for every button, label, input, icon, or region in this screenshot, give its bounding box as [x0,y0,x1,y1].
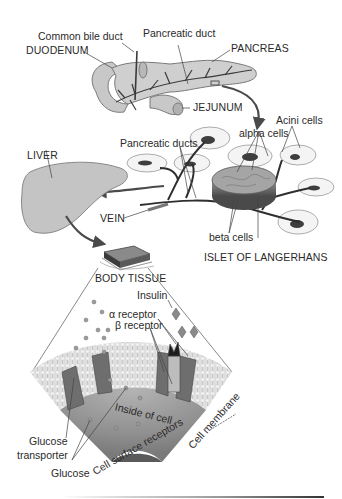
label-beta-cells: beta cells [209,232,253,243]
body-tissue-group [100,246,154,270]
label-alpha-cells: alpha cells [239,128,289,139]
pancreas-shape [112,60,256,104]
label-islet-of-langerhans: ISLET OF LANGERHANS [204,252,328,263]
label-insulin: Insulin [137,290,167,301]
label-alpha-receptor: α receptor [109,309,157,320]
label-body-tissue: BODY TISSUE [95,273,166,284]
label-duodenum: DUODENUM [26,45,89,56]
liver-group [22,150,128,243]
bottom-rule [60,496,324,498]
label-glucose-transporter-line1: Glucose [29,436,68,447]
label-common-bile-duct: Common bile duct [38,31,123,42]
pancreas-group [92,51,259,124]
label-acini-cells: Acini cells [276,115,323,126]
label-pancreatic-duct: Pancreatic duct [143,28,215,39]
label-pancreas: PANCREAS [231,43,289,54]
insulin-molecules [172,308,198,338]
label-glucose: Glucose [51,468,90,479]
label-pancreatic-ducts: Pancreatic ducts [120,138,198,149]
label-vein: VEIN [100,213,125,224]
label-beta-receptor: β receptor [115,320,162,331]
label-jejunum: JEJUNUM [193,102,243,113]
insulin-pathway-diagram: Common bile duct Pancreatic duct DUODENU… [0,0,342,499]
label-liver: LIVER [27,150,58,161]
label-glucose-transporter-line2: transporter [17,450,68,461]
